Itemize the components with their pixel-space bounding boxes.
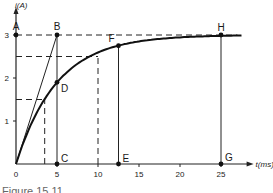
y-axis-label: i(A) — [15, 1, 28, 10]
point-G — [219, 162, 224, 167]
x-tick-label: 0 — [14, 170, 19, 179]
point-A — [14, 33, 19, 38]
x-tick-label: 15 — [135, 170, 144, 179]
point-D — [55, 80, 60, 85]
point-label-G: G — [225, 152, 233, 163]
point-E — [116, 162, 121, 167]
x-axis-label: t(ms) — [256, 160, 273, 169]
point-F — [116, 43, 121, 48]
point-label-A: A — [13, 21, 20, 32]
point-label-F: F — [108, 33, 114, 44]
figure-caption: Figure 15.11 — [2, 185, 63, 193]
series-line-current — [16, 36, 242, 165]
chart: t(ms)i(A)0510152025123ABCDEFGH — [0, 0, 273, 193]
x-tick-label: 25 — [217, 170, 226, 179]
point-label-C: C — [61, 153, 68, 164]
point-C — [55, 162, 60, 167]
point-H — [219, 33, 224, 38]
point-label-E: E — [123, 153, 130, 164]
point-label-H: H — [217, 22, 224, 33]
point-label-B: B — [54, 21, 61, 32]
y-tick-label: 2 — [5, 74, 10, 83]
point-B — [55, 33, 60, 38]
x-tick-label: 10 — [94, 170, 103, 179]
y-tick-label: 1 — [5, 117, 10, 126]
x-tick-label: 5 — [55, 170, 60, 179]
point-label-D: D — [61, 83, 68, 94]
x-tick-label: 20 — [176, 170, 185, 179]
x-axis-arrow — [247, 162, 254, 167]
y-tick-label: 3 — [5, 31, 10, 40]
